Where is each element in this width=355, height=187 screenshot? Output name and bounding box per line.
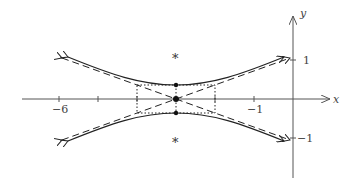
center-point [173,96,179,102]
x-tick-label-neg6: −6 [52,103,68,116]
y-axis-label: y [299,7,307,20]
focus-lower: * [172,135,179,150]
hyperbola-diagram: x y −6 −1 1 −1 * * [0,0,355,187]
y-tick-label-neg1: −1 [297,132,313,145]
x-axis-label: x [333,93,340,106]
y-tick-label-1: 1 [303,54,310,67]
focus-upper: * [172,51,179,66]
x-tick-label-neg1: −1 [247,103,263,116]
vertex-lower [174,111,178,115]
vertex-upper [174,83,178,87]
